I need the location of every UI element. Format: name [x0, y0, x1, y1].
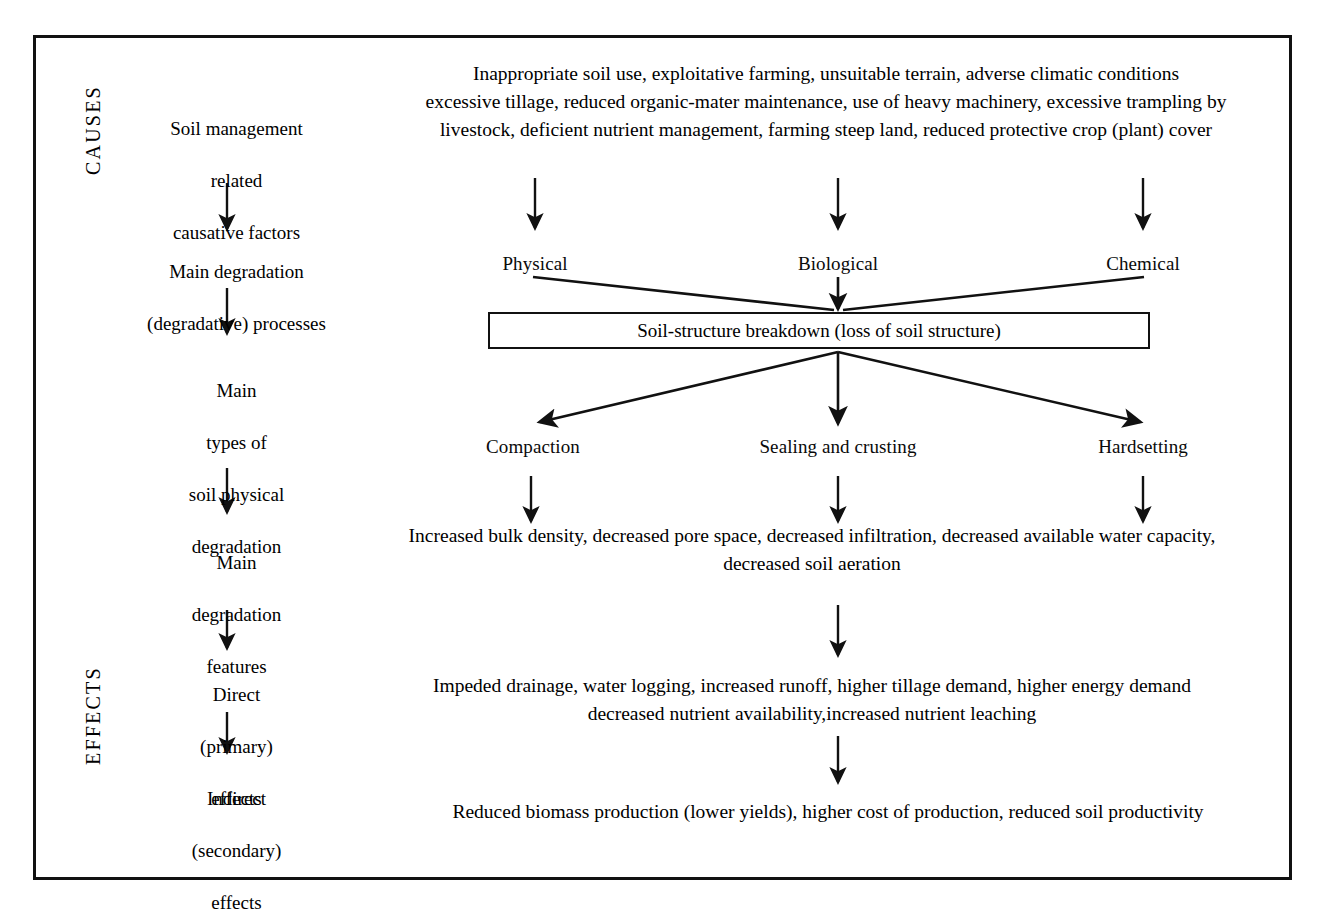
stage-line: soil physical	[189, 484, 285, 505]
stage-line: Main	[216, 380, 256, 401]
soil-structure-breakdown-label: Soil-structure breakdown (loss of soil s…	[637, 320, 1001, 342]
stage-line: (degradative) processes	[147, 313, 326, 334]
primary-effects-text-block: Impeded drainage, water logging, increas…	[362, 672, 1262, 728]
causes-line: Inappropriate soil use, exploitative far…	[316, 60, 1319, 88]
stage-line: (primary)	[200, 736, 273, 757]
soil-structure-breakdown-box: Soil-structure breakdown (loss of soil s…	[488, 312, 1150, 349]
stage-line: Soil management	[170, 118, 302, 139]
stage-line: Main degradation	[169, 261, 304, 282]
stage-line: related	[211, 170, 263, 191]
features-line: Increased bulk density, decreased pore s…	[362, 522, 1262, 550]
degradation-features-text-block: Increased bulk density, decreased pore s…	[362, 522, 1262, 578]
side-label-causes: CAUSES	[82, 85, 105, 175]
degradation-type-compaction: Compaction	[486, 434, 580, 459]
process-label-chemical: Chemical	[1106, 251, 1180, 276]
features-line: decreased soil aeration	[362, 550, 1262, 578]
stage-line: (secondary)	[192, 840, 282, 861]
figure-canvas: CAUSES EFFECTS Soil management related c…	[0, 0, 1319, 917]
primary-effects-line: decreased nutrient availability,increase…	[362, 700, 1262, 728]
degradation-type-hardsetting: Hardsetting	[1098, 434, 1188, 459]
stage-degradation-processes: Main degradation (degradative) processes	[128, 233, 326, 363]
secondary-effects-line: Reduced biomass production (lower yields…	[378, 798, 1278, 826]
degradation-type-sealing-and-crusting: Sealing and crusting	[759, 434, 916, 459]
causes-text-block: Inappropriate soil use, exploitative far…	[316, 60, 1319, 144]
stage-line: types of	[206, 432, 267, 453]
arrow-box-compaction	[540, 352, 838, 422]
line-physical-to-box	[533, 277, 834, 310]
stage-line: effects	[211, 892, 261, 913]
line-chemical-to-box	[843, 277, 1144, 310]
secondary-effects-text-block: Reduced biomass production (lower yields…	[378, 798, 1278, 826]
stage-line: degradation	[192, 604, 282, 625]
process-label-physical: Physical	[502, 251, 567, 276]
stage-line: Main	[216, 552, 256, 573]
process-label-biological: Biological	[798, 251, 878, 276]
arrow-box-hardsetting	[838, 352, 1140, 422]
causes-line: excessive tillage, reduced organic-mater…	[316, 88, 1319, 116]
stage-line: Direct	[213, 684, 260, 705]
stage-indirect-effects: Indirect (secondary) effects	[173, 760, 282, 917]
side-label-effects: EFFECTS	[82, 666, 105, 765]
causes-line: livestock, deficient nutrient management…	[316, 116, 1319, 144]
primary-effects-line: Impeded drainage, water logging, increas…	[362, 672, 1262, 700]
stage-line: Indirect	[207, 788, 266, 809]
